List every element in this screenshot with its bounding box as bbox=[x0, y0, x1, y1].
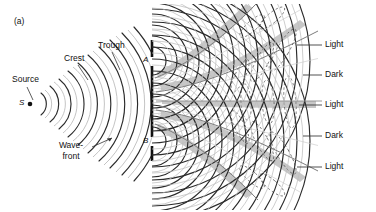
wave-interference-drawing bbox=[0, 0, 376, 212]
trough-label: Trough bbox=[98, 40, 125, 50]
slit-a-label: A bbox=[143, 55, 148, 65]
fringe-label-dark-1: Dark bbox=[325, 69, 343, 79]
source-point-label: S bbox=[19, 98, 24, 108]
wavefront-label-line2: front bbox=[50, 151, 92, 161]
fringe-label-light-2: Light bbox=[325, 99, 343, 109]
fringe-label-light-3: Light bbox=[325, 161, 343, 171]
source-point-marker bbox=[28, 102, 33, 107]
interference-figure: (a) Source S Crest Trough Wave- front A … bbox=[0, 0, 376, 212]
source-label: Source bbox=[12, 74, 39, 84]
panel-label: (a) bbox=[14, 16, 24, 26]
crest-label: Crest bbox=[64, 53, 84, 63]
slit-b-label: B bbox=[143, 136, 148, 146]
fringe-label-light-1: Light bbox=[325, 39, 343, 49]
wavefront-label-line1: Wave- bbox=[50, 140, 92, 150]
source-leader-line bbox=[27, 87, 33, 100]
fringe-label-dark-2: Dark bbox=[325, 130, 343, 140]
